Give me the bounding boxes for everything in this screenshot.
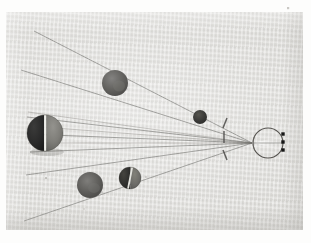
ray-far-upper-left bbox=[34, 31, 252, 143]
sphere-upper-gray bbox=[102, 70, 128, 96]
plate-speck-lower bbox=[83, 208, 84, 209]
schematic-eye bbox=[253, 128, 285, 158]
sphere-dark-hemisphere bbox=[27, 115, 44, 151]
upper-tick bbox=[223, 118, 227, 128]
sphere-small-dark bbox=[193, 110, 207, 124]
sphere-lower-gray bbox=[77, 172, 103, 198]
retina-dot-upper bbox=[281, 132, 284, 135]
figure-root bbox=[0, 0, 311, 243]
sphere-lower-dark-terminator bbox=[119, 164, 142, 194]
photographic-plate bbox=[6, 12, 303, 230]
sphere-terminator-stripe bbox=[44, 115, 46, 151]
retina-dot-lower bbox=[281, 148, 284, 151]
plate-speck-mid bbox=[145, 176, 147, 178]
sphere-body bbox=[193, 110, 207, 124]
retina-dot-center bbox=[281, 140, 284, 143]
optics-diagram bbox=[6, 12, 303, 230]
sphere-large-terminator bbox=[27, 115, 64, 156]
sphere-lit-hemisphere bbox=[46, 115, 64, 151]
sphere-highlight bbox=[113, 81, 125, 92]
sphere-highlight bbox=[88, 183, 100, 193]
margin-speck-top-right bbox=[287, 7, 289, 9]
plate-speck-left bbox=[45, 177, 47, 179]
